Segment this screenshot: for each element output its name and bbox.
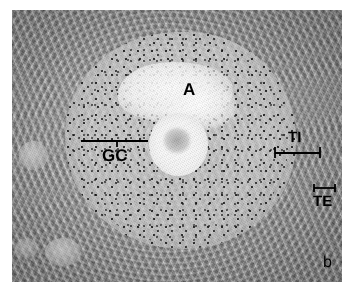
oocyte-nucleus — [164, 128, 190, 152]
stromal-blob — [15, 238, 38, 257]
micrograph-image — [12, 10, 342, 282]
label-granulosa-cells: GC — [102, 147, 128, 164]
figure-panel: A GC TI TE b — [0, 0, 347, 292]
panel-label: b — [323, 255, 332, 271]
theca-interna-measure-bar — [272, 147, 324, 159]
label-theca-externa: TE — [313, 194, 332, 209]
stromal-blob — [45, 238, 81, 265]
granulosa-cells-measure-bar — [81, 136, 151, 146]
label-antrum: A — [183, 81, 195, 98]
label-theca-interna: TI — [288, 130, 301, 145]
